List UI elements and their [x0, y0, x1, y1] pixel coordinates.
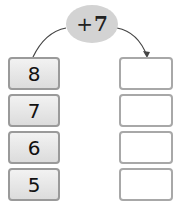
answer-box[interactable]	[119, 168, 173, 201]
output-column	[119, 57, 173, 205]
input-column: 8 7 6 5	[8, 57, 60, 205]
operator-oval: + 7	[66, 5, 118, 43]
input-box: 7	[8, 94, 60, 127]
answer-box[interactable]	[119, 131, 173, 164]
plus-sign: +	[76, 12, 93, 36]
input-box: 5	[8, 168, 60, 201]
answer-box[interactable]	[119, 57, 173, 90]
input-box: 8	[8, 57, 60, 90]
answer-box[interactable]	[119, 94, 173, 127]
left-arc	[33, 28, 66, 57]
input-box: 6	[8, 131, 60, 164]
right-arc	[117, 28, 147, 56]
operator-value: 7	[94, 12, 108, 36]
